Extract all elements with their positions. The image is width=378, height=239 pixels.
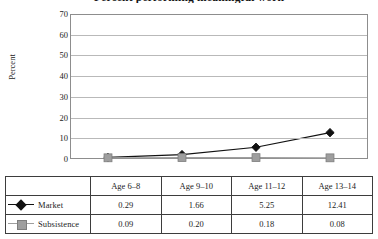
diamond-marker-icon xyxy=(8,199,34,211)
table-column-header: Age 11–12 xyxy=(232,177,303,196)
series-name-label: Market xyxy=(38,200,63,210)
gridline xyxy=(71,55,367,56)
legend-marker xyxy=(17,220,27,230)
gridline xyxy=(71,76,367,77)
table-cell: 0.29 xyxy=(91,196,162,215)
table-cell: 5.25 xyxy=(232,196,303,215)
data-point-marker xyxy=(252,143,260,151)
table-cell: 0.20 xyxy=(161,215,232,234)
plot-area xyxy=(70,14,368,159)
table-cell: 0.09 xyxy=(91,215,162,234)
table-cell: 0.18 xyxy=(232,215,303,234)
series-subsistence xyxy=(104,154,334,162)
y-axis-title: Percent xyxy=(7,37,17,97)
table-row: Market0.291.665.2512.41 xyxy=(6,196,373,215)
chart-figure: Percent performing meaningful work Perce… xyxy=(0,0,378,239)
square-marker-icon xyxy=(8,218,34,230)
data-point-marker xyxy=(326,154,334,162)
plot-region: Percent 010203040506070 xyxy=(0,0,378,176)
data-point-marker xyxy=(104,154,112,162)
y-axis-tick-label: 60 xyxy=(40,30,68,39)
gridline xyxy=(71,35,367,36)
data-point-marker xyxy=(178,154,186,162)
series-name-label: Subsistence xyxy=(38,219,79,229)
table-cell: 1.66 xyxy=(161,196,232,215)
table-row: Subsistence0.090.200.180.08 xyxy=(6,215,373,234)
y-axis-tick-label: 10 xyxy=(40,134,68,143)
series-canvas xyxy=(71,15,367,158)
data-point-marker xyxy=(326,129,334,137)
legend-entry-subsistence: Subsistence xyxy=(6,215,91,234)
legend-marker xyxy=(15,199,26,210)
y-axis-tick-label: 70 xyxy=(40,10,68,19)
legend-entry-market: Market xyxy=(6,196,91,215)
y-axis-tick-label: 0 xyxy=(40,155,68,164)
y-axis-tick-label: 30 xyxy=(40,93,68,102)
gridline xyxy=(71,138,367,139)
gridline xyxy=(71,118,367,119)
series-market xyxy=(104,129,334,162)
table-cell: 12.41 xyxy=(302,196,373,215)
table-column-header: Age 6–8 xyxy=(91,177,162,196)
y-axis-tick-labels: 010203040506070 xyxy=(40,14,68,159)
table-corner-cell xyxy=(6,177,91,196)
y-axis-tick-label: 40 xyxy=(40,72,68,81)
y-axis-tick-label: 50 xyxy=(40,51,68,60)
data-table-container: Age 6–8Age 9–10Age 11–12Age 13–14Market0… xyxy=(5,176,373,234)
series-line xyxy=(108,133,330,158)
table-cell: 0.08 xyxy=(302,215,373,234)
data-point-marker xyxy=(252,154,260,162)
data-table: Age 6–8Age 9–10Age 11–12Age 13–14Market0… xyxy=(5,176,373,234)
table-column-header: Age 9–10 xyxy=(161,177,232,196)
gridline xyxy=(71,97,367,98)
table-header-row: Age 6–8Age 9–10Age 11–12Age 13–14 xyxy=(6,177,373,196)
table-column-header: Age 13–14 xyxy=(302,177,373,196)
y-axis-tick-label: 20 xyxy=(40,113,68,122)
